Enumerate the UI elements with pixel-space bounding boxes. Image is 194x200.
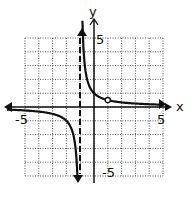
x-axis-arrow-icon [165,103,172,111]
hole-point [105,98,110,103]
y-tick-max: 5 [96,33,104,46]
curve-arrow-up-icon [77,28,87,36]
x-tick-min: -5 [15,113,28,126]
graph [0,0,194,200]
y-axis-label: y [89,5,97,18]
curve-arrow-down-icon [73,175,83,183]
x-axis-label: x [176,100,184,113]
x-tick-max: 5 [157,113,165,126]
y-tick-min: -5 [102,166,115,179]
